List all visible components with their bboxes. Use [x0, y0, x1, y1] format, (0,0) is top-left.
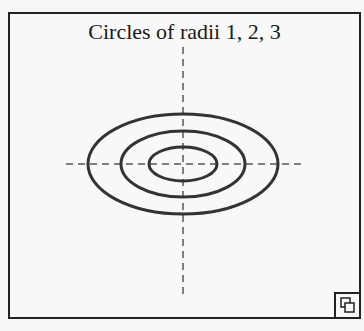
- plot-area: [10, 14, 359, 317]
- circle-radius-1: [149, 147, 217, 181]
- resize-button[interactable]: [334, 292, 359, 317]
- plot-frame: Circles of radii 1, 2, 3: [8, 12, 361, 319]
- copy-windows-icon: [336, 294, 359, 317]
